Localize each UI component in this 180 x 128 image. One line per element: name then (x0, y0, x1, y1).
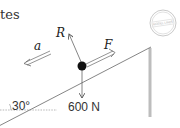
reaction-label: R (56, 27, 65, 39)
angle-label: 30° (12, 100, 30, 112)
incline-surface (0, 47, 151, 128)
weight-label: 600 N (68, 101, 100, 113)
mass-ball (78, 62, 87, 71)
angle-arc (10, 104, 12, 110)
force-label: F (104, 39, 112, 51)
fragment-text: tes (0, 8, 20, 21)
incline-force-diagram: tes R F a 30° 600 N MODEL LINES (0, 0, 180, 128)
acceleration-label: a (34, 40, 41, 52)
acceleration-vector (24, 51, 51, 66)
reaction-vector (69, 34, 82, 64)
wall (149, 48, 152, 117)
